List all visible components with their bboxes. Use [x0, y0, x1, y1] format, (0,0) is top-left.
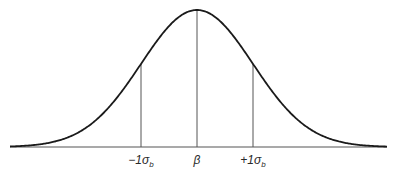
plus-one-sigma-label: +1σb: [240, 153, 266, 169]
normal-distribution-diagram: −1σbβ+1σb: [0, 0, 398, 176]
mean-label: β: [193, 153, 201, 167]
minus-one-sigma-label: −1σb: [128, 153, 154, 169]
sigma-marker-lines: [141, 10, 253, 147]
sigma-marker-labels: −1σbβ+1σb: [128, 153, 266, 169]
bell-curve: [10, 10, 387, 147]
